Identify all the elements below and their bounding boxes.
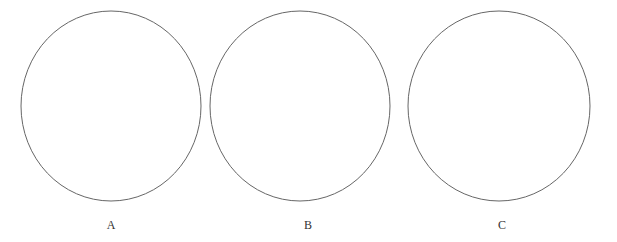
circle-outline-b [210, 11, 390, 201]
shape-label-a: A [107, 219, 116, 231]
shape-label-c: C [498, 219, 506, 231]
shape-label-b: B [304, 219, 312, 231]
shapes-canvas [0, 0, 617, 242]
circle-outline-c [408, 11, 590, 201]
figure-container: A B C [0, 0, 617, 242]
circle-outline-a [21, 11, 201, 201]
